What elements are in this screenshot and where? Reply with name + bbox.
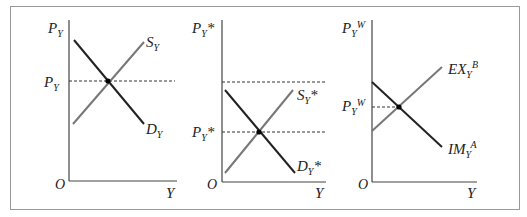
import-demand-label: IMYA: [447, 139, 477, 160]
panel-world: PYW PYW EXYB IMYA O Y: [341, 19, 478, 201]
panel-home: PY PY SY DY O Y: [43, 20, 177, 201]
y-axis-label: PYW: [341, 19, 367, 39]
origin-label: O: [55, 177, 65, 192]
x-axis-label: Y: [467, 185, 477, 201]
export-supply-label: EXYB: [447, 59, 478, 80]
equilibrium-point: [396, 104, 401, 109]
supply-label: SY: [146, 34, 161, 53]
x-axis-label: Y: [315, 185, 325, 201]
equilibrium-point: [256, 129, 261, 134]
x-axis-label: Y: [166, 185, 176, 201]
origin-label: O: [358, 177, 368, 192]
origin-label: O: [207, 177, 217, 192]
supply-label: SY*: [297, 87, 318, 106]
demand-label: DY*: [296, 158, 321, 177]
equilibrium-point: [105, 78, 110, 83]
demand-label: DY: [145, 121, 164, 140]
price-label: PYW: [341, 97, 367, 117]
three-panel-trade-diagram: PY PY SY DY O Y PY* PY* SY* DY* O Y PYW …: [0, 0, 527, 217]
price-label: PY: [43, 74, 60, 93]
y-axis-label: PY*: [191, 20, 215, 39]
price-label: PY*: [191, 124, 215, 143]
export-supply-curve: [372, 67, 442, 131]
y-axis-label: PY: [47, 20, 64, 39]
import-demand-curve: [372, 82, 442, 147]
panel-foreign: PY* PY* SY* DY* O Y: [191, 20, 326, 201]
